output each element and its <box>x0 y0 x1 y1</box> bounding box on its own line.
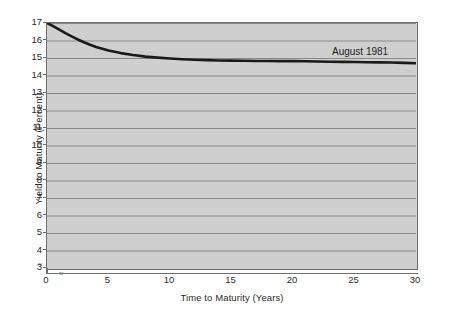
x-tick-label-5: 5 <box>96 275 120 285</box>
y-tick-label-15: 15 <box>16 52 42 62</box>
y-tick-label-6: 6 <box>16 210 42 220</box>
data-series <box>47 23 416 63</box>
y-axis-line-stub <box>46 268 48 274</box>
series-line-0 <box>47 23 416 63</box>
y-tick-label-9: 9 <box>16 157 42 167</box>
x-tick-label-10: 10 <box>157 275 181 285</box>
y-tick-label-16: 16 <box>16 35 42 45</box>
x-axis-tick-labels: 051015202530 <box>0 275 455 289</box>
y-tick-label-13: 13 <box>16 87 42 97</box>
plot-area <box>46 22 418 270</box>
x-tick-label-30: 30 <box>403 275 427 285</box>
x-tick-label-25: 25 <box>342 275 366 285</box>
y-tick-label-17: 17 <box>16 17 42 27</box>
chart-canvas <box>47 23 416 268</box>
figure: Yield to Maturity (Percent) 345678910111… <box>0 0 455 315</box>
y-tick-label-4: 4 <box>16 245 42 255</box>
y-tick-label-7: 7 <box>16 192 42 202</box>
y-tick-label-10: 10 <box>16 140 42 150</box>
y-tick-label-12: 12 <box>16 105 42 115</box>
x-axis-title: Time to Maturity (Years) <box>46 292 418 303</box>
y-tick-label-8: 8 <box>16 175 42 185</box>
x-tick-label-0: 0 <box>34 275 58 285</box>
y-tick-label-5: 5 <box>16 227 42 237</box>
y-tick-label-14: 14 <box>16 70 42 80</box>
x-tick-label-15: 15 <box>219 275 243 285</box>
x-axis-line <box>46 273 418 274</box>
series-annotation-august-1981: August 1981 <box>332 46 388 57</box>
y-tick-label-11: 11 <box>16 122 42 132</box>
x-tick-label-20: 20 <box>280 275 304 285</box>
y-axis-break-icon: ≈ <box>38 261 42 269</box>
